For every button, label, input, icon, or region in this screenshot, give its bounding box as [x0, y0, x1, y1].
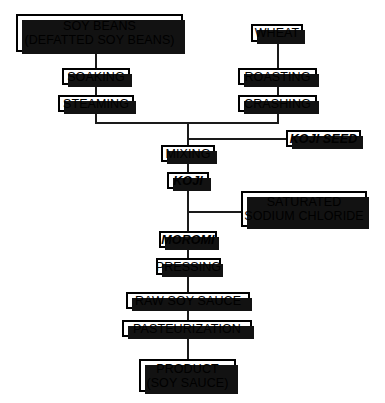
node-raw-soy-sauce-label: RAW SOY SAUCE — [135, 294, 241, 308]
node-koji-seed[interactable]: KOJI SEED — [286, 130, 361, 147]
node-moromi[interactable]: MOROMI — [159, 231, 217, 248]
connector-trunk-to-mixing — [187, 122, 189, 146]
connector-soybeans-to-soaking — [95, 52, 97, 69]
node-wheat-label: WHEAT — [255, 26, 300, 40]
node-product-line1: PRODUCT — [156, 362, 219, 376]
node-roasting[interactable]: ROASTING — [238, 68, 317, 85]
node-saturated-sodium-chloride-line1: SATURATED — [267, 195, 342, 209]
node-crashing[interactable]: CRASHING — [238, 95, 317, 112]
node-koji[interactable]: KOJI — [167, 172, 209, 189]
node-moromi-label: MOROMI — [161, 233, 214, 247]
flowchart-canvas: SOY BEANS (DEFATTED SOY BEANS) SOAKING S… — [0, 0, 385, 403]
node-koji-seed-label: KOJI SEED — [290, 132, 358, 146]
node-product-line2: (SOY SAUCE) — [146, 376, 228, 390]
node-koji-label: KOJI — [173, 174, 203, 188]
node-saturated-sodium-chloride[interactable]: SATURATED SODIUM CHLORIDE — [241, 191, 367, 227]
node-product[interactable]: PRODUCT (SOY SAUCE) — [139, 359, 236, 392]
node-pressing[interactable]: PRESSING — [156, 258, 221, 275]
node-soy-beans[interactable]: SOY BEANS (DEFATTED SOY BEANS) — [16, 14, 183, 52]
node-pasteurization-label: PASTEURIZATION — [133, 322, 241, 336]
node-crashing-label: CRASHING — [244, 97, 311, 111]
node-soaking-label: SOAKING — [67, 70, 125, 84]
node-pressing-label: PRESSING — [156, 260, 221, 274]
node-soy-beans-line1: SOY BEANS — [63, 19, 136, 33]
connector-pasteurization-to-product — [187, 337, 189, 360]
connector-kojiseed-to-trunk — [187, 138, 287, 140]
node-soaking[interactable]: SOAKING — [62, 68, 130, 85]
node-raw-soy-sauce[interactable]: RAW SOY SAUCE — [126, 292, 250, 309]
node-steaming-label: STEAMING — [63, 97, 129, 111]
node-pasteurization[interactable]: PASTEURIZATION — [122, 320, 252, 337]
node-saturated-sodium-chloride-line2: SODIUM CHLORIDE — [244, 209, 364, 223]
connector-brine-to-trunk — [187, 211, 242, 213]
node-steaming[interactable]: STEAMING — [58, 95, 134, 112]
node-wheat[interactable]: WHEAT — [251, 24, 303, 42]
node-roasting-label: ROASTING — [244, 70, 310, 84]
node-mixing-label: MIXING — [165, 147, 210, 161]
node-soy-beans-line2: (DEFATTED SOY BEANS) — [24, 33, 174, 47]
connector-pressing-to-rawsoysauce — [187, 275, 189, 293]
node-mixing[interactable]: MIXING — [161, 145, 215, 162]
connector-wheat-to-roasting — [277, 42, 279, 69]
